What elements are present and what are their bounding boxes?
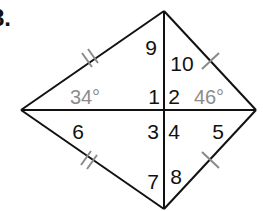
angle-label-7: 7: [147, 170, 159, 193]
kite-diagram: 8.: [0, 0, 263, 211]
angle-label-4: 4: [168, 120, 180, 143]
given-angle-46: 46°: [194, 86, 224, 108]
edge-bottom-left: [21, 110, 164, 209]
angle-label-1: 1: [148, 85, 160, 108]
problem-number: 8.: [0, 6, 11, 30]
given-angle-34: 34°: [70, 86, 100, 108]
given-angles: 34° 46°: [70, 86, 224, 108]
angle-label-8: 8: [170, 165, 182, 188]
diagonals: [21, 11, 256, 209]
kite-svg: 34° 46° 1 2 3 4 5 6 7 8 9 10: [0, 0, 263, 211]
angle-label-2: 2: [168, 85, 180, 108]
angle-label-10: 10: [170, 52, 193, 75]
angle-label-5: 5: [212, 120, 224, 143]
angle-label-9: 9: [145, 36, 157, 59]
angle-label-6: 6: [72, 120, 84, 143]
angle-label-3: 3: [147, 120, 159, 143]
double-tick-icon-top-left: [82, 49, 98, 67]
